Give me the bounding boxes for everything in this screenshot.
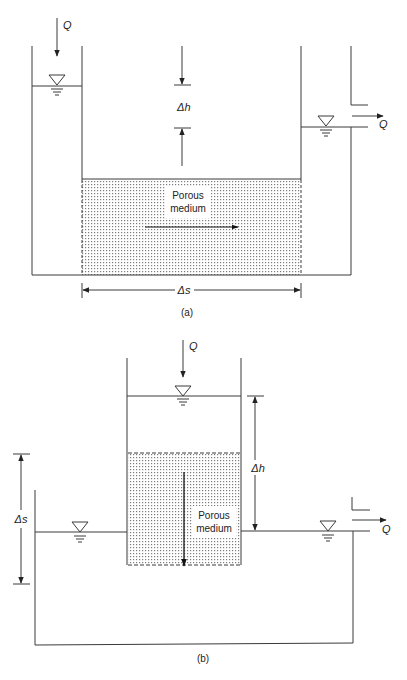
length-label-a: Δs [177, 284, 191, 296]
diagram-canvas: Q Δh Q Porous medium Δs (a) [0, 0, 407, 680]
head-diff-label-b: Δh [250, 462, 265, 474]
medium-label-line2-b: medium [196, 523, 232, 534]
length-label-b: Δs [14, 513, 28, 525]
water-level-symbol-icon [318, 116, 334, 136]
outflow-label-a: Q [379, 118, 388, 130]
figure-a [32, 18, 383, 298]
medium-label-line2-a: medium [170, 203, 206, 214]
head-diff-label-a: Δh [176, 101, 191, 113]
medium-label-line1-b: Porous [198, 510, 230, 521]
reservoir-bottom-b [35, 643, 353, 645]
medium-label-line1-a: Porous [172, 190, 204, 201]
outflow-label-b: Q [382, 523, 391, 535]
water-level-symbol-icon [49, 75, 65, 95]
inflow-label-a: Q [63, 19, 72, 31]
inflow-label-b: Q [189, 340, 198, 352]
figure-b [13, 340, 386, 645]
caption-a: (a) [181, 307, 193, 318]
caption-b: (b) [197, 653, 209, 664]
